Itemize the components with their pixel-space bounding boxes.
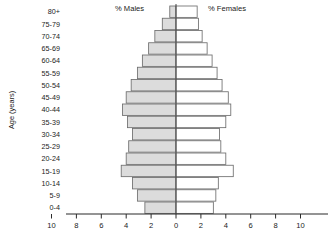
x-tick-label-2: 6 (99, 221, 103, 230)
x-tick-label-10: 10 (296, 221, 304, 230)
bar-male-15-19 (121, 165, 176, 176)
age-label-25-29: 25-29 (42, 142, 60, 151)
bar-female-75-79 (176, 18, 198, 29)
bar-female-15-19 (176, 165, 233, 176)
bar-male-50-54 (131, 80, 176, 91)
bar-male-45-49 (126, 92, 176, 103)
bar-male-40-44 (122, 104, 176, 115)
bar-male-20-24 (126, 153, 176, 164)
x-tick-label-5: 0 (174, 221, 178, 230)
bar-female-50-54 (176, 80, 222, 91)
bar-female-25-29 (176, 141, 221, 152)
x-tick-label-9: 8 (273, 221, 277, 230)
bar-female-5-9 (176, 190, 216, 201)
bar-female-55-59 (176, 67, 217, 78)
legend-females-label: % Females (208, 4, 246, 13)
age-label-60-64: 60-64 (42, 56, 60, 65)
bar-male-65-69 (149, 43, 176, 54)
bar-female-35-39 (176, 116, 226, 127)
bar-female-0-4 (176, 202, 213, 213)
x-tick-label-8: 6 (249, 221, 253, 230)
bar-male-75-79 (162, 18, 176, 29)
age-label-15-19: 15-19 (42, 167, 60, 176)
x-tick-label-3: 4 (124, 221, 128, 230)
bar-male-10-14 (132, 178, 176, 189)
age-label-5-9: 5-9 (50, 191, 60, 200)
bar-male-30-34 (132, 129, 176, 140)
x-tick-label-7: 4 (224, 221, 228, 230)
pyramid-plot-area: 0-45-910-1415-1920-2425-2930-3435-3940-4… (0, 0, 332, 246)
age-label-10-14: 10-14 (42, 179, 60, 188)
bar-male-60-64 (142, 55, 176, 66)
age-label-35-39: 35-39 (42, 118, 60, 127)
age-label-20-24: 20-24 (42, 154, 60, 163)
age-label-70-74: 70-74 (42, 32, 60, 41)
bar-female-10-14 (176, 178, 218, 189)
age-label-50-54: 50-54 (42, 81, 60, 90)
y-axis-title: Age (years) (7, 91, 16, 129)
age-label-55-59: 55-59 (42, 69, 60, 78)
x-tick-label-6: 2 (199, 221, 203, 230)
bar-female-60-64 (176, 55, 212, 66)
bar-female-70-74 (176, 31, 202, 42)
age-label-65-69: 65-69 (42, 44, 60, 53)
age-label-30-34: 30-34 (42, 130, 60, 139)
age-label-75-79: 75-79 (42, 20, 60, 29)
x-tick-label-0: 10 (47, 221, 55, 230)
bar-female-40-44 (176, 104, 231, 115)
bar-male-80+ (170, 6, 176, 17)
bar-female-45-49 (176, 92, 228, 103)
bar-male-25-29 (129, 141, 176, 152)
bar-female-20-24 (176, 153, 226, 164)
bar-male-5-9 (137, 190, 176, 201)
bar-female-65-69 (176, 43, 207, 54)
age-label-0-4: 0-4 (50, 203, 60, 212)
legend-males-label: % Males (115, 4, 144, 13)
population-pyramid-chart: 0-45-910-1415-1920-2425-2930-3435-3940-4… (0, 0, 332, 246)
x-tick-label-1: 8 (74, 221, 78, 230)
age-label-45-49: 45-49 (42, 93, 60, 102)
age-label-80+: 80+ (48, 7, 60, 16)
x-tick-label-4: 2 (149, 221, 153, 230)
bar-male-0-4 (145, 202, 176, 213)
bar-male-55-59 (137, 67, 176, 78)
age-label-40-44: 40-44 (42, 105, 60, 114)
bar-male-35-39 (127, 116, 176, 127)
bar-male-70-74 (155, 31, 176, 42)
bar-female-30-34 (176, 129, 220, 140)
bar-female-80+ (176, 6, 197, 17)
